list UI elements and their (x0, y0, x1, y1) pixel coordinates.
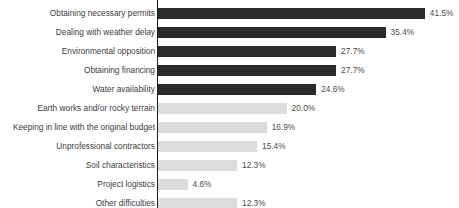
category-label: Unprofessional contractors (56, 137, 155, 156)
bar-value-label: 16.9% (272, 118, 296, 137)
chart-row: Keeping in line with the original budget… (0, 118, 459, 137)
bar (158, 103, 287, 114)
chart-row: Obtaining necessary permits41.5% (0, 4, 459, 23)
bar (158, 179, 188, 190)
category-label: Project logistics (97, 175, 155, 194)
bar-value-label: 15.4% (262, 137, 286, 156)
chart-row: Soil characteristics12.3% (0, 156, 459, 175)
category-label: Obtaining financing (84, 61, 155, 80)
bar (158, 122, 267, 133)
category-label: Obtaining necessary permits (50, 4, 155, 23)
chart-row: Dealing with weather delay35.4% (0, 23, 459, 42)
category-label: Soil characteristics (86, 156, 155, 175)
bar (158, 8, 425, 19)
bar (158, 160, 237, 171)
bar-chart: Obtaining necessary permits41.5%Dealing … (0, 0, 459, 208)
chart-row: Obtaining financing27.7% (0, 61, 459, 80)
bar-value-label: 12.3% (242, 156, 266, 175)
chart-title (0, 0, 459, 1)
category-label: Other difficulties (96, 194, 155, 208)
category-label: Keeping in line with the original budget (13, 118, 155, 137)
bar-value-label: 27.7% (341, 42, 365, 61)
chart-row: Earth works and/or rocky terrain20.0% (0, 99, 459, 118)
chart-row: Water availability24.6% (0, 80, 459, 99)
bar (158, 27, 386, 38)
category-label: Earth works and/or rocky terrain (37, 99, 155, 118)
bar-value-label: 41.5% (430, 4, 454, 23)
chart-row: Unprofessional contractors15.4% (0, 137, 459, 156)
category-label: Environmental opposition (62, 42, 155, 61)
bar-value-label: 4.6% (193, 175, 212, 194)
chart-row: Environmental opposition27.7% (0, 42, 459, 61)
bar (158, 84, 316, 95)
chart-row: Other difficulties12.3% (0, 194, 459, 208)
chart-row: Project logistics4.6% (0, 175, 459, 194)
bar-value-label: 27.7% (341, 61, 365, 80)
bar-value-label: 24.6% (321, 80, 345, 99)
bar (158, 198, 237, 208)
bar (158, 46, 336, 57)
category-label: Dealing with weather delay (56, 23, 155, 42)
bar-value-label: 20.0% (292, 99, 316, 118)
category-label: Water availability (93, 80, 155, 99)
bar-value-label: 35.4% (391, 23, 415, 42)
bar (158, 65, 336, 76)
bar-value-label: 12.3% (242, 194, 266, 208)
bar (158, 141, 257, 152)
